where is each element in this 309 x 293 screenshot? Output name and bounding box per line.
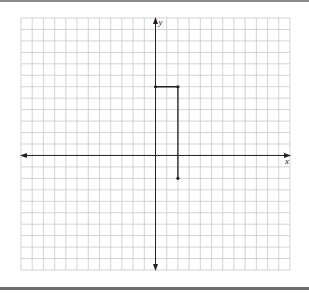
path-point — [154, 85, 157, 88]
path-point — [176, 85, 179, 88]
path-point — [176, 177, 179, 180]
y-axis-label: y — [158, 17, 163, 27]
coordinate-plane: x y — [0, 0, 309, 293]
x-axis-label: x — [284, 156, 289, 166]
bottom-rule — [0, 287, 309, 290]
